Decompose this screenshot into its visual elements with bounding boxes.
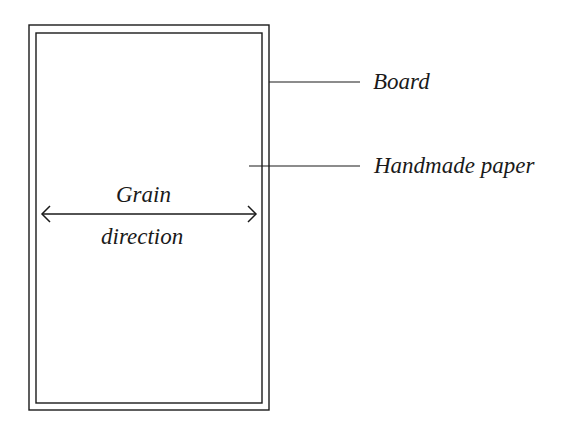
board-label: Board <box>373 69 430 95</box>
diagram-canvas <box>0 0 580 430</box>
grain-direction-arrow-icon <box>42 206 256 222</box>
handmade-paper-label: Handmade paper <box>374 153 534 179</box>
board-outline <box>29 25 269 410</box>
direction-label: direction <box>101 224 183 250</box>
grain-label: Grain <box>116 182 171 208</box>
handmade-paper-outline <box>36 33 262 403</box>
